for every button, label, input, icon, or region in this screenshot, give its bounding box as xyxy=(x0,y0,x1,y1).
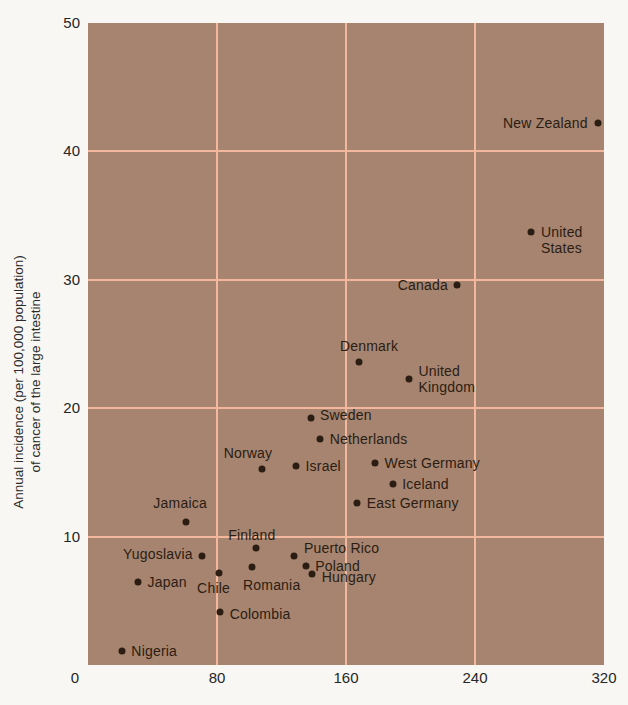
data-point-dot xyxy=(354,500,361,507)
gridline-horizontal xyxy=(88,150,604,152)
data-point-label: Puerto Rico xyxy=(304,540,379,556)
data-point-label: Iceland xyxy=(402,476,449,492)
x-tick-label: 0 xyxy=(71,669,79,687)
data-point-label: New Zealand xyxy=(503,115,588,131)
y-tick-label: 50 xyxy=(34,14,80,32)
gridline-vertical xyxy=(474,23,476,665)
data-point-dot xyxy=(309,570,316,577)
data-point-dot xyxy=(454,281,461,288)
data-point-dot xyxy=(355,358,362,365)
x-tick-label: 320 xyxy=(591,669,616,687)
y-axis-title-line-1: Annual incidence (per 100,000 population… xyxy=(10,122,27,642)
data-point-dot xyxy=(302,563,309,570)
x-tick-label: 160 xyxy=(333,669,358,687)
x-tick-label: 80 xyxy=(209,669,226,687)
data-point-label: Colombia xyxy=(230,606,291,622)
y-tick-label: 40 xyxy=(34,142,80,160)
data-point-label: West Germany xyxy=(385,455,481,471)
data-point-dot xyxy=(134,578,141,585)
data-point-label: Sweden xyxy=(320,407,372,423)
data-point-dot xyxy=(217,609,224,616)
data-point-label: Yugoslavia xyxy=(123,546,193,562)
data-point-dot xyxy=(389,480,396,487)
data-point-dot xyxy=(405,375,412,382)
x-tick-label: 240 xyxy=(462,669,487,687)
data-point-dot xyxy=(594,120,601,127)
y-tick-label: 30 xyxy=(34,271,80,289)
data-point-label: UnitedStates xyxy=(541,224,583,256)
data-point-dot xyxy=(293,462,300,469)
y-axis-title-line-2: of cancer of the large intestine xyxy=(27,122,44,642)
plot-area: New ZealandUnitedStatesCanadaDenmarkUnit… xyxy=(88,23,604,665)
data-point-label: Hungary xyxy=(322,569,376,585)
data-point-label: Finland xyxy=(228,527,275,543)
data-point-label: Denmark xyxy=(340,338,398,354)
gridline-horizontal xyxy=(88,536,604,538)
chart-figure: Annual incidence (per 100,000 population… xyxy=(0,0,628,705)
gridline-horizontal xyxy=(88,279,604,281)
data-point-label: Norway xyxy=(224,445,273,461)
y-tick-label: 10 xyxy=(34,528,80,546)
data-point-label: Canada xyxy=(398,277,448,293)
data-point-dot xyxy=(259,465,266,472)
data-point-label: Japan xyxy=(147,574,186,590)
data-point-label: Chile xyxy=(197,580,230,596)
data-point-dot xyxy=(183,519,190,526)
data-point-dot xyxy=(215,569,222,576)
data-point-label: Israel xyxy=(306,458,341,474)
data-point-label: East Germany xyxy=(367,495,459,511)
data-point-dot xyxy=(372,460,379,467)
data-point-label: Nigeria xyxy=(131,643,177,659)
data-point-label: Romania xyxy=(243,577,300,593)
data-point-dot xyxy=(118,647,125,654)
data-point-dot xyxy=(249,564,256,571)
data-point-dot xyxy=(199,552,206,559)
data-point-label: Jamaica xyxy=(153,495,207,511)
data-point-dot xyxy=(291,552,298,559)
data-point-label: UnitedKingdom xyxy=(418,363,475,395)
data-point-dot xyxy=(252,545,259,552)
data-point-label: Netherlands xyxy=(330,431,408,447)
data-point-dot xyxy=(317,436,324,443)
y-axis-title: Annual incidence (per 100,000 population… xyxy=(10,122,44,642)
data-point-dot xyxy=(307,415,314,422)
data-point-dot xyxy=(528,229,535,236)
y-tick-label: 20 xyxy=(34,399,80,417)
